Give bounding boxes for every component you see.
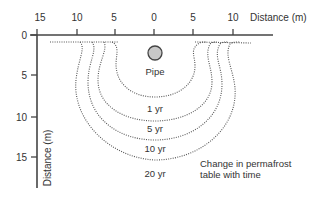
pipe-label: Pipe xyxy=(145,66,164,77)
permafrost-diagram: 15 10 5 0 5 10 Distance (m) 0 5 10 15 Di… xyxy=(0,0,320,197)
y-tick-label: 0 xyxy=(21,30,27,41)
x-axis-ticks xyxy=(37,29,233,35)
y-tick-label: 15 xyxy=(16,152,28,163)
y-tick-label: 5 xyxy=(21,70,27,81)
y-axis-tick-labels: 0 5 10 15 xyxy=(16,30,28,163)
x-tick-label: 5 xyxy=(111,12,117,23)
x-tick-label: 10 xyxy=(71,12,83,23)
y-axis-label: Distance (m) xyxy=(42,130,53,187)
y-tick-label: 10 xyxy=(16,112,28,123)
contour-label-20yr: 20 yr xyxy=(144,168,165,179)
contour-label-1yr: 1 yr xyxy=(147,103,163,114)
pipe-icon xyxy=(148,46,162,60)
caption-line-1: Change in permafrost xyxy=(200,158,292,169)
x-axis-label: Distance (m) xyxy=(250,12,307,23)
y-axis-ticks xyxy=(31,35,37,157)
x-axis-tick-labels: 15 10 5 0 5 10 Distance (m) xyxy=(34,12,306,23)
contour-label-5yr: 5 yr xyxy=(147,123,163,134)
x-tick-label: 0 xyxy=(151,12,157,23)
contour-label-10yr: 10 yr xyxy=(144,143,165,154)
x-tick-label: 5 xyxy=(190,12,196,23)
x-tick-label: 10 xyxy=(227,12,239,23)
caption-line-2: table with time xyxy=(200,169,261,180)
surface-line-right xyxy=(195,42,251,43)
x-tick-label: 15 xyxy=(34,12,46,23)
